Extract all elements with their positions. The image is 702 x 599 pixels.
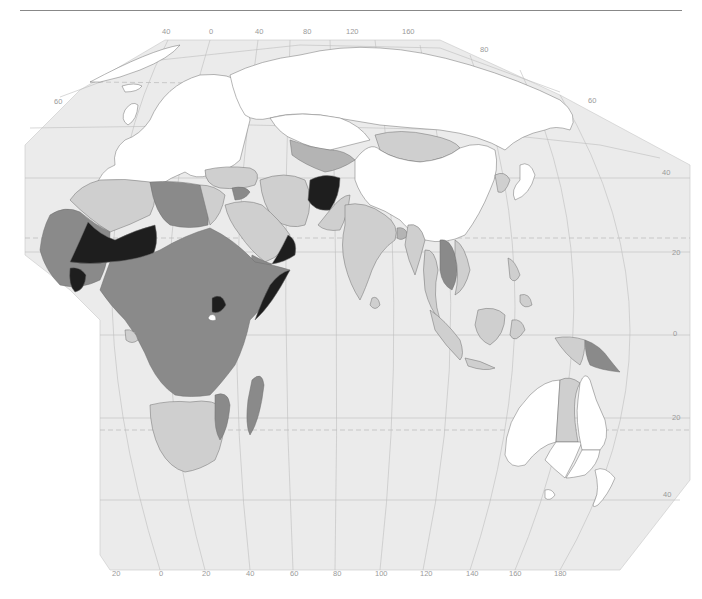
map-labels: 40 0 40 80 120 160 80 60 40 20 0 20 40 6… [0,0,702,599]
lat-label: 40 [663,490,671,499]
lon-label: 120 [420,569,433,578]
lon-label: 160 [402,27,415,36]
top-longitude-labels: 40 0 40 80 120 160 [162,27,415,36]
lat-label: 0 [673,329,677,338]
left-latitude-labels: 60 [54,97,62,106]
lon-label: 0 [159,569,163,578]
lon-label: 40 [246,569,254,578]
lon-label: 20 [202,569,210,578]
lat-label: 40 [662,168,670,177]
lon-label: 40 [255,27,263,36]
lat-label: 60 [588,96,596,105]
lon-label: 100 [375,569,388,578]
lon-label: 0 [209,27,213,36]
lon-label: 40 [162,27,170,36]
lat-label: 20 [672,248,680,257]
lat-label: 80 [480,45,488,54]
lon-label: 140 [466,569,479,578]
lon-label: 80 [303,27,311,36]
bottom-longitude-labels: 20 0 20 40 60 80 100 120 140 160 180 [112,569,567,578]
right-latitude-labels: 80 60 40 20 0 20 40 [480,45,680,499]
lon-label: 60 [290,569,298,578]
lon-label: 120 [346,27,359,36]
lat-label: 20 [672,413,680,422]
lon-label: 80 [333,569,341,578]
lon-label: 160 [509,569,522,578]
lon-label: 20 [112,569,120,578]
lon-label: 180 [554,569,567,578]
lat-label: 60 [54,97,62,106]
